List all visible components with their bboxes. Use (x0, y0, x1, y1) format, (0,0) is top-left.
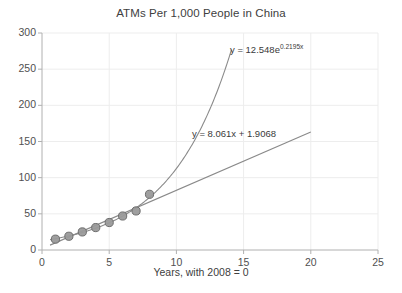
y-axis-tick-label: 150 (8, 135, 36, 147)
linear-trendline (50, 132, 311, 245)
x-axis-title: Years, with 2008 = 0 (0, 266, 402, 278)
exponential-trendline (50, 50, 231, 240)
y-axis-tick-label: 300 (8, 26, 36, 38)
y-axis-tick-label: 0 (8, 243, 36, 255)
chart-container: ATMs Per 1,000 People in China 050100150… (0, 0, 402, 293)
y-axis-tick-label: 100 (8, 171, 36, 183)
gridlines-group (42, 33, 378, 250)
plot-area (0, 0, 402, 293)
exponential-equation-exponent: 0.2195x (280, 43, 303, 50)
data-point-marker (119, 212, 127, 220)
exponential-equation-label: y = 12.548e0.2195x (230, 44, 303, 55)
data-point-marker (51, 235, 59, 243)
data-point-marker (132, 207, 140, 215)
data-point-marker (92, 223, 100, 231)
y-axis-tick-label: 50 (8, 207, 36, 219)
y-axis-tick-label: 200 (8, 98, 36, 110)
exponential-equation-text: y = 12.548e (230, 44, 280, 55)
linear-equation-label: y = 8.061x + 1.9068 (192, 128, 276, 139)
axis-ticks-group (38, 33, 378, 254)
trendlines-group (50, 50, 311, 246)
y-axis-tick-label: 250 (8, 62, 36, 74)
data-point-marker (78, 228, 86, 236)
data-point-marker (145, 190, 153, 198)
data-point-marker (105, 218, 113, 226)
data-markers-group (51, 190, 153, 243)
data-point-marker (65, 232, 73, 240)
